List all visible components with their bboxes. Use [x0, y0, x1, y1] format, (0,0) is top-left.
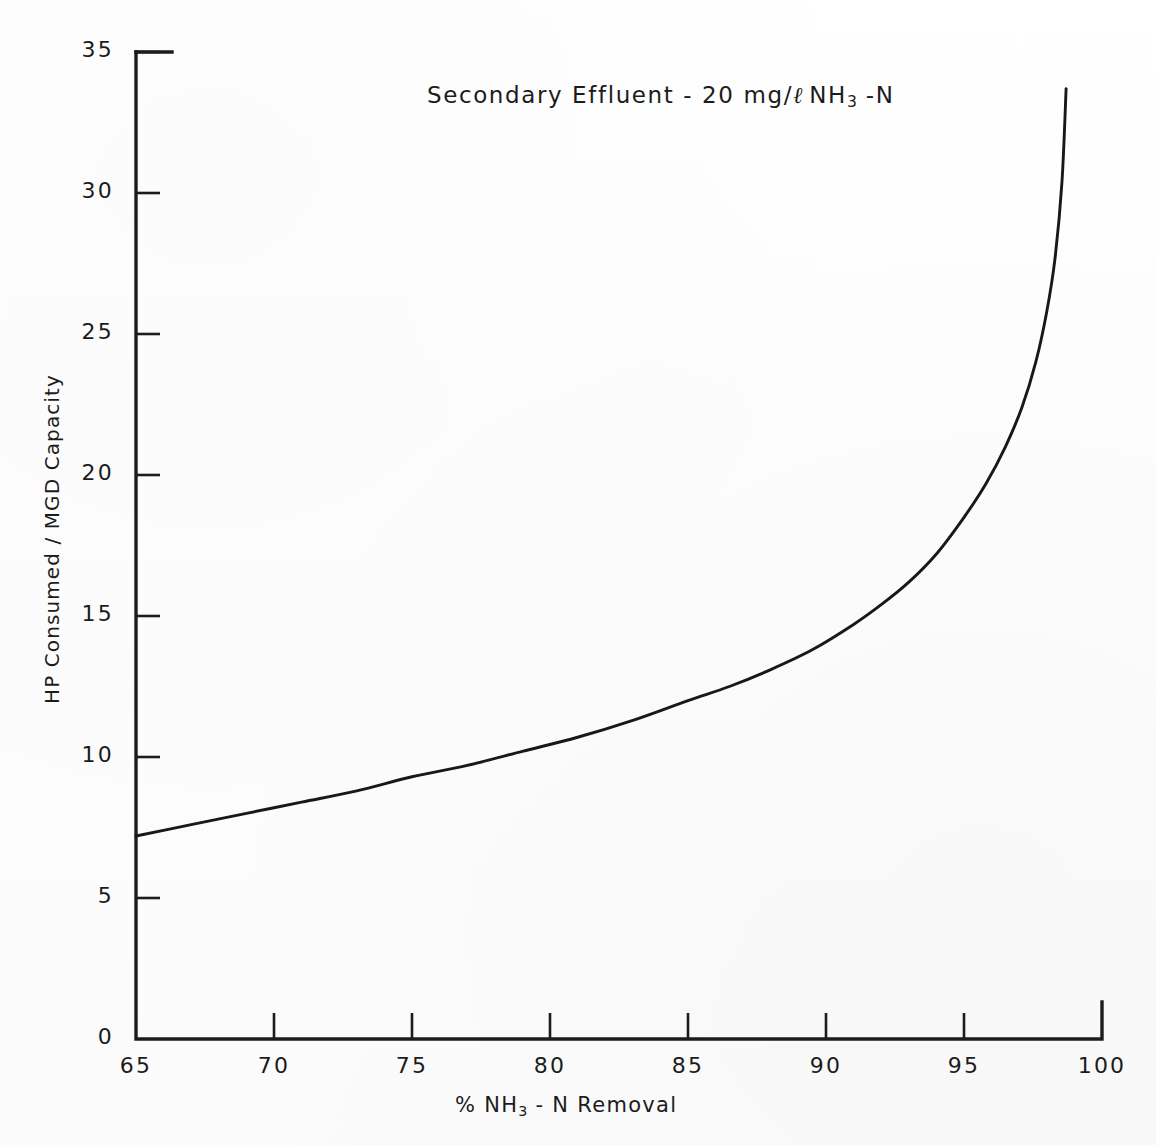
y-axis-tick-label: 30 [62, 178, 114, 203]
x-axis-tick-label: 100 [1067, 1053, 1137, 1078]
title-suffix: -N [857, 82, 895, 108]
y-axis-tick-label: 35 [62, 37, 114, 62]
title-species-subscript: 3 [847, 92, 857, 111]
title-unit-liter: ℓ [793, 82, 804, 108]
y-axis-tick-label: 15 [62, 601, 114, 626]
x-axis-tick-label: 85 [653, 1053, 723, 1078]
axes-group [136, 52, 1102, 1039]
x-axis-tick-label: 90 [791, 1053, 861, 1078]
x-axis-tick-label: 70 [239, 1053, 309, 1078]
data-line-hp-consumed [136, 89, 1066, 836]
chart-figure: Secondary Effluent - 20 mg/ℓNH3 -N % NH3… [0, 0, 1156, 1145]
x-axis-title-prefix: % NH [455, 1093, 518, 1117]
title-species: NH [809, 82, 847, 108]
x-axis-tick-label: 80 [515, 1053, 585, 1078]
title-unit-mg: mg/ [743, 82, 793, 108]
y-axis-tick-label: 10 [62, 742, 114, 767]
y-axis-tick-label: 0 [62, 1024, 114, 1049]
x-axis-tick-label: 75 [377, 1053, 447, 1078]
y-axis-ticks [136, 52, 160, 898]
chart-title: Secondary Effluent - 20 mg/ℓNH3 -N [427, 82, 895, 111]
y-axis-title: HP Consumed / MGD Capacity [40, 404, 64, 704]
y-axis-tick-label: 25 [62, 319, 114, 344]
y-axis-tick-label: 20 [62, 460, 114, 485]
title-prefix: Secondary Effluent - 20 [427, 82, 743, 108]
y-axis-tick-label: 5 [62, 883, 114, 908]
data-series-group [136, 89, 1066, 836]
x-axis-title-suffix: - N Removal [527, 1093, 677, 1117]
chart-plot-area [0, 0, 1156, 1145]
x-axis-tick-label: 95 [929, 1053, 999, 1078]
x-axis-tick-label: 65 [101, 1053, 171, 1078]
axis-frame [136, 52, 1102, 1039]
x-axis-title: % NH3 - N Removal [455, 1093, 677, 1119]
x-axis-ticks [274, 1013, 964, 1039]
